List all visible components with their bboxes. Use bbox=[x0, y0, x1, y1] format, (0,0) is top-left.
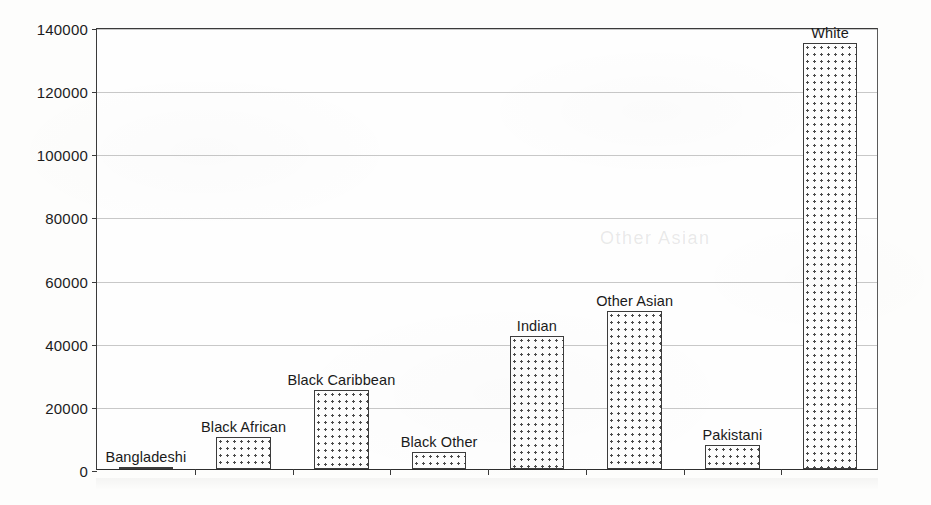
y-tick-label: 0 bbox=[79, 463, 88, 480]
y-tick-label: 60000 bbox=[45, 273, 88, 290]
gridline bbox=[97, 282, 877, 283]
y-tick-label: 140000 bbox=[37, 21, 88, 38]
y-tick-mark bbox=[92, 345, 97, 346]
x-tick-mark bbox=[586, 469, 587, 475]
y-tick-mark bbox=[92, 282, 97, 283]
y-tick-mark bbox=[92, 218, 97, 219]
bar-label-other-asian: Other Asian bbox=[596, 293, 673, 309]
gridline bbox=[97, 218, 877, 219]
gridline bbox=[97, 345, 877, 346]
bar-label-pakistani: Pakistani bbox=[703, 427, 763, 443]
plot-area: 020000400006000080000100000120000140000 … bbox=[96, 28, 878, 470]
y-tick-label: 120000 bbox=[37, 84, 88, 101]
bar-other-asian[interactable] bbox=[607, 311, 662, 469]
bar-label-black-other: Black Other bbox=[401, 434, 478, 450]
bar-pakistani[interactable] bbox=[705, 445, 760, 469]
scan-smudge bbox=[96, 478, 878, 490]
y-tick-mark bbox=[92, 471, 97, 472]
x-tick-mark bbox=[390, 469, 391, 475]
bar-indian[interactable] bbox=[510, 336, 565, 469]
bar-bangladeshi[interactable] bbox=[119, 467, 174, 469]
bar-label-black-caribbean: Black Caribbean bbox=[287, 372, 395, 388]
gridline bbox=[97, 155, 877, 156]
x-tick-mark bbox=[195, 469, 196, 475]
y-tick-mark bbox=[92, 155, 97, 156]
bar-label-indian: Indian bbox=[517, 318, 557, 334]
y-tick-mark bbox=[92, 92, 97, 93]
gridline bbox=[97, 408, 877, 409]
bar-label-white: White bbox=[811, 25, 849, 41]
x-tick-mark bbox=[488, 469, 489, 475]
gridline bbox=[97, 29, 877, 30]
bar-label-black-african: Black African bbox=[201, 419, 286, 435]
gridline bbox=[97, 92, 877, 93]
bar-black-caribbean[interactable] bbox=[314, 390, 369, 469]
y-tick-label: 20000 bbox=[45, 399, 88, 416]
x-tick-mark bbox=[781, 469, 782, 475]
y-tick-label: 100000 bbox=[37, 147, 88, 164]
x-tick-mark bbox=[684, 469, 685, 475]
y-tick-mark bbox=[92, 408, 97, 409]
bar-black-other[interactable] bbox=[412, 452, 467, 469]
bar-label-bangladeshi: Bangladeshi bbox=[105, 449, 186, 465]
y-tick-label: 80000 bbox=[45, 210, 88, 227]
bar-chart: Other Asian 0200004000060000800001000001… bbox=[0, 0, 931, 505]
bar-black-african[interactable] bbox=[216, 437, 271, 469]
bar-white[interactable] bbox=[803, 43, 858, 469]
y-tick-mark bbox=[92, 29, 97, 30]
x-tick-mark bbox=[293, 469, 294, 475]
y-tick-label: 40000 bbox=[45, 336, 88, 353]
